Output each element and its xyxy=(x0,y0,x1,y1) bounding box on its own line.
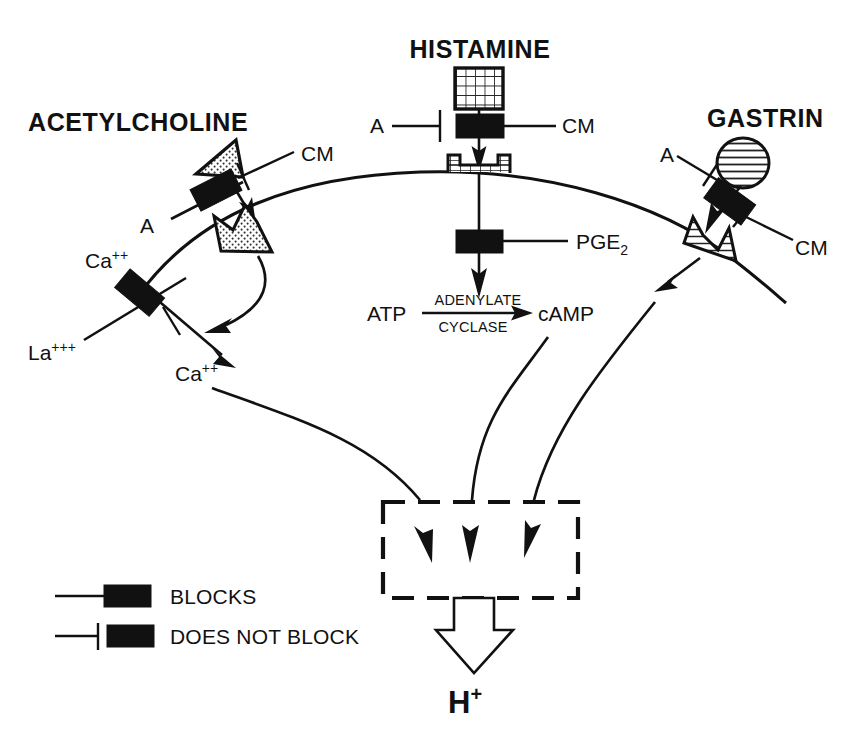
proton-pump-box xyxy=(383,502,578,598)
histamine-blocker-label: A xyxy=(370,114,384,137)
adenylate-cyclase-reaction: ATP ADENYLATE CYCLASE cAMP xyxy=(367,292,594,335)
hollow-output-arrow xyxy=(436,598,513,673)
converging-signal-arrows xyxy=(212,302,655,563)
legend-label-blocks: BLOCKS xyxy=(170,585,256,608)
legend-item-does-not-block: DOES NOT BLOCK xyxy=(55,623,359,650)
histamine-title: HISTAMINE xyxy=(409,35,550,63)
gastrin-nonblocker-label: CM xyxy=(795,236,828,259)
histamine-nonblocker-label: CM xyxy=(562,114,595,137)
calcium-to-pump-arrow xyxy=(212,388,433,563)
histamine-nonblocker-CM: CM xyxy=(504,114,595,137)
calcium-intracellular-label: Ca++ xyxy=(175,360,218,385)
pge2-block-bar xyxy=(456,230,503,253)
pge2-label: PGE2 xyxy=(576,230,628,258)
legend: BLOCKS DOES NOT BLOCK xyxy=(55,585,359,650)
histamine-group: HISTAMINE A CM xyxy=(370,35,595,230)
legend-item-blocks: BLOCKS xyxy=(55,585,256,608)
adenylate-cyclase-line1: ADENYLATE xyxy=(435,292,522,308)
histamine-block-bar xyxy=(456,114,504,138)
acetylcholine-title: ACETYLCHOLINE xyxy=(28,108,248,136)
gastrin-title: GASTRIN xyxy=(707,104,824,132)
legend-label-does-not-block: DOES NOT BLOCK xyxy=(170,625,359,648)
gastrin-to-pump-arrow xyxy=(524,302,655,558)
proton-label: H+ xyxy=(448,683,482,720)
calcium-channel-block-bar xyxy=(115,269,165,316)
gastrin-blocker-label: A xyxy=(660,143,674,166)
calcium-channel-group: Ca++ La+++ Ca++ xyxy=(28,247,236,385)
nonblock-symbol-block xyxy=(107,625,154,647)
signaling-diagram: HISTAMINE A CM xyxy=(0,0,853,729)
proton-output: H+ xyxy=(436,598,513,720)
acetylcholine-group: ACETYLCHOLINE A CM xyxy=(28,108,334,333)
camp-label: cAMP xyxy=(538,302,594,325)
acetylcholine-nonblocker-label: CM xyxy=(301,142,334,165)
acetylcholine-ligand-triangle xyxy=(196,140,243,177)
pge2-group: PGE2 xyxy=(456,230,628,298)
gastrin-blocker-A: A xyxy=(660,143,718,186)
lanthanum-label: La+++ xyxy=(28,339,76,364)
acetylcholine-receptor xyxy=(214,205,272,252)
histamine-blocker-A: A xyxy=(370,110,440,142)
calcium-influx-label: Ca++ xyxy=(85,247,128,272)
histamine-ligand-grid-square xyxy=(455,68,503,109)
gastrin-ligand-ellipse xyxy=(717,138,769,188)
acetylcholine-blocker-label: A xyxy=(140,214,154,237)
adenylate-cyclase-line2: CYCLASE xyxy=(438,319,507,335)
atp-label: ATP xyxy=(367,302,406,325)
figure-canvas: HISTAMINE A CM xyxy=(0,0,853,729)
acetylcholine-intracellular-curve xyxy=(204,256,265,333)
gastrin-receptor-outflow-arrow xyxy=(654,258,700,292)
blocks-symbol-block xyxy=(104,585,151,607)
